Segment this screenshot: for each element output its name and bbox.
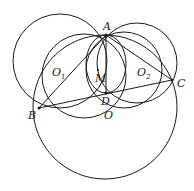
label-D: D <box>101 96 110 107</box>
diagram-canvas <box>0 0 194 191</box>
label-O1-text: O <box>52 66 61 79</box>
geometry-diagram: A B C D O M O1 O2 <box>0 0 194 191</box>
label-O2-sub: 2 <box>146 73 150 81</box>
label-O1: O1 <box>52 67 66 81</box>
label-O1-sub: 1 <box>61 73 65 81</box>
point-M <box>97 69 99 71</box>
label-O: O <box>104 110 113 121</box>
label-M: M <box>95 73 106 84</box>
label-C: C <box>177 78 185 89</box>
label-O2: O2 <box>137 67 151 81</box>
point-A <box>105 34 108 37</box>
label-B: B <box>28 110 36 121</box>
point-B <box>38 107 41 110</box>
circle-O1 <box>13 14 107 108</box>
label-O2-text: O <box>137 66 146 79</box>
point-C <box>171 79 174 82</box>
label-A: A <box>103 21 111 32</box>
